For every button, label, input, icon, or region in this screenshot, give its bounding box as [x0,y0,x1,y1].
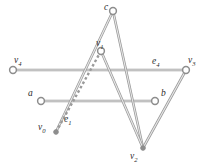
vertex-label-b: b [161,88,166,98]
vertex-c[interactable] [110,8,117,15]
vertex-a[interactable] [38,98,45,105]
edge-label-e4: e4 [152,56,160,68]
vertex-label-v0: v0 [38,122,46,134]
edge-label-e1: e1 [64,114,72,126]
edge-c-v2 [113,11,143,148]
vertex-label-c: c [104,2,109,12]
node-layer [10,8,190,151]
vertex-b[interactable] [152,98,159,105]
graph-canvas: cv1v4v3abv0v2e4e1 [0,0,209,163]
vertex-v3[interactable] [183,67,190,74]
vertex-v4[interactable] [10,67,17,74]
vertex-label-v1: v1 [96,38,104,50]
vertex-label-a: a [28,88,33,98]
vertex-label-v4: v4 [14,55,22,67]
vertex-label-v2: v2 [130,151,138,163]
vertex-label-v3: v3 [188,55,196,67]
vertex-v0[interactable] [54,130,59,135]
edge-v1-v2 [101,51,143,148]
edge-v3-v2 [143,70,186,148]
graph-figure: cv1v4v3abv0v2e4e1 [0,0,209,163]
vertex-v2[interactable] [141,146,146,151]
